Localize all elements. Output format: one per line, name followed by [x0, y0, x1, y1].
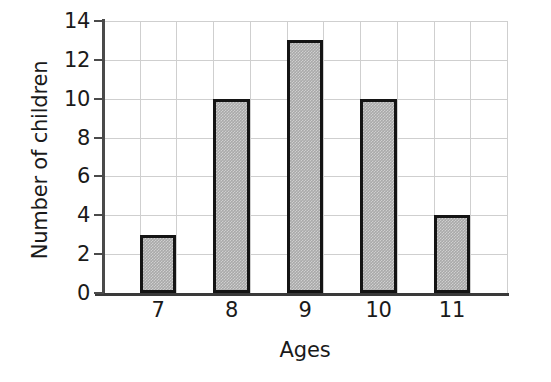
y-axis-tick-label: 6: [77, 166, 90, 187]
y-axis-tick-mark: [94, 20, 104, 22]
y-axis-tick-mark: [94, 214, 104, 216]
y-axis-tick-mark: [94, 137, 104, 139]
x-axis-title: Ages: [103, 338, 507, 362]
grid-line-horizontal: [103, 21, 507, 22]
grid-line-vertical: [397, 21, 398, 293]
x-axis-spine: [95, 293, 509, 296]
y-axis-tick-label: 4: [77, 205, 90, 226]
y-axis-tick-mark: [94, 292, 104, 294]
x-axis-tick-labels: 7891011: [103, 300, 507, 330]
y-axis-tick-mark: [94, 59, 104, 61]
bar-8: [213, 99, 250, 293]
y-axis-tick-label: 0: [77, 283, 90, 304]
y-axis-tick-label: 8: [77, 127, 90, 148]
y-axis-tick-mark: [94, 253, 104, 255]
x-axis-tick-label: 7: [152, 300, 165, 321]
grid-line-vertical: [250, 21, 251, 293]
y-axis-tick-label: 2: [77, 244, 90, 265]
y-axis-tick-label: 10: [64, 88, 90, 109]
plot-area: [103, 21, 507, 293]
grid-line-vertical: [507, 21, 508, 293]
bar-7: [140, 235, 177, 293]
x-axis-tick-label: 11: [439, 300, 465, 321]
bar-chart: Number of children 02468101214 7891011 A…: [0, 0, 551, 382]
y-axis-tick-mark: [94, 175, 104, 177]
y-axis-tick-label: 14: [64, 11, 90, 32]
bar-10: [360, 99, 397, 293]
x-axis-tick-label: 10: [365, 300, 391, 321]
bar-9: [287, 40, 324, 293]
y-axis-tick-label: 12: [64, 49, 90, 70]
x-axis-tick-label: 9: [298, 300, 311, 321]
y-axis-tick-mark: [94, 98, 104, 100]
x-axis-tick-label: 8: [225, 300, 238, 321]
y-axis-tick-labels: 02468101214: [52, 21, 96, 293]
bar-11: [434, 215, 471, 293]
